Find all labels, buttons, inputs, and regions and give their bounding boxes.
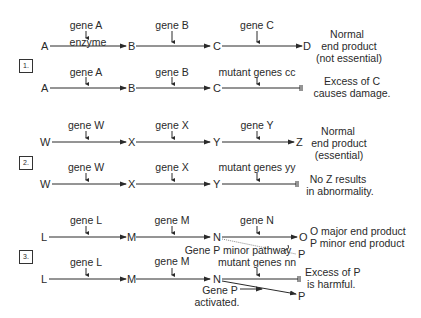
pathway-node: L: [41, 273, 47, 285]
pathway-node: Y: [213, 178, 220, 190]
gene-label: gene N: [240, 214, 274, 226]
gene-label: gene Y: [240, 119, 273, 131]
pathway-node: A: [41, 82, 48, 94]
pathway-node: B: [128, 40, 135, 52]
outcome-text: in abnormality.: [306, 185, 374, 197]
gene-label: gene X: [155, 119, 188, 131]
gene-label: gene X: [155, 161, 188, 173]
gene-label: gene A: [70, 19, 103, 31]
pathway-node: C: [213, 40, 221, 52]
pathway-node: N: [213, 231, 221, 243]
gene-label: gene C: [240, 19, 274, 31]
pathway-node: X: [128, 136, 135, 148]
outcome-text: is harmful.: [307, 278, 355, 290]
pathway-node: A: [41, 40, 48, 52]
pathway-node: C: [213, 82, 221, 94]
outcome-text: (essential): [315, 149, 363, 161]
gene-label: gene W: [68, 161, 104, 173]
gene-label: gene A: [70, 66, 103, 78]
gene-label: gene W: [68, 119, 104, 131]
mutant-gene-label: mutant genes nn: [218, 256, 296, 268]
minor-pathway-label: Gene P minor pathway: [185, 244, 292, 256]
gene-label: gene M: [154, 214, 189, 226]
pathway-node: Z: [296, 136, 303, 148]
mutant-gene-label: mutant genes cc: [218, 66, 295, 78]
gene-label: gene B: [155, 19, 188, 31]
pathway-node: P: [298, 248, 305, 260]
pathway-node: M: [127, 273, 136, 285]
pathway-node: W: [40, 178, 50, 190]
pathway-node: X: [128, 178, 135, 190]
outcome-text: (not essential): [316, 52, 382, 64]
outcome-text: O major end product: [310, 225, 406, 237]
pathway-node: W: [40, 136, 50, 148]
pathway-node: O: [299, 231, 308, 243]
gene-label: gene L: [70, 256, 102, 268]
outcome-text: Excess of C: [324, 75, 380, 87]
section-number-box: 3.: [19, 250, 33, 264]
pathway-node: D: [303, 40, 311, 52]
outcome-text: end product: [311, 137, 366, 149]
enzyme-label: enzyme: [70, 36, 107, 48]
section-number-box: 2.: [19, 156, 33, 170]
gene-label: gene L: [70, 214, 102, 226]
outcome-text: end product: [321, 40, 376, 52]
outcome-text: Excess of P: [305, 266, 360, 278]
outcome-text: P minor end product: [310, 237, 404, 249]
pathway-node: L: [41, 231, 47, 243]
pathway-node: B: [128, 82, 135, 94]
pathway-node: M: [127, 231, 136, 243]
mutant-gene-label: mutant genes yy: [218, 161, 295, 173]
gene-label: gene B: [155, 66, 188, 78]
pathway-node: P: [298, 290, 305, 302]
outcome-text: Normal: [321, 125, 355, 137]
outcome-text: No Z results: [310, 173, 367, 185]
outcome-text: Normal: [330, 28, 364, 40]
gene-activated-label: activated.: [195, 296, 240, 308]
outcome-text: causes damage.: [313, 87, 390, 99]
gene-activated-label: Gene P: [202, 284, 238, 296]
gene-label: gene M: [154, 255, 189, 267]
pathway-node: Y: [213, 136, 220, 148]
section-number-box: 1.: [19, 59, 33, 73]
